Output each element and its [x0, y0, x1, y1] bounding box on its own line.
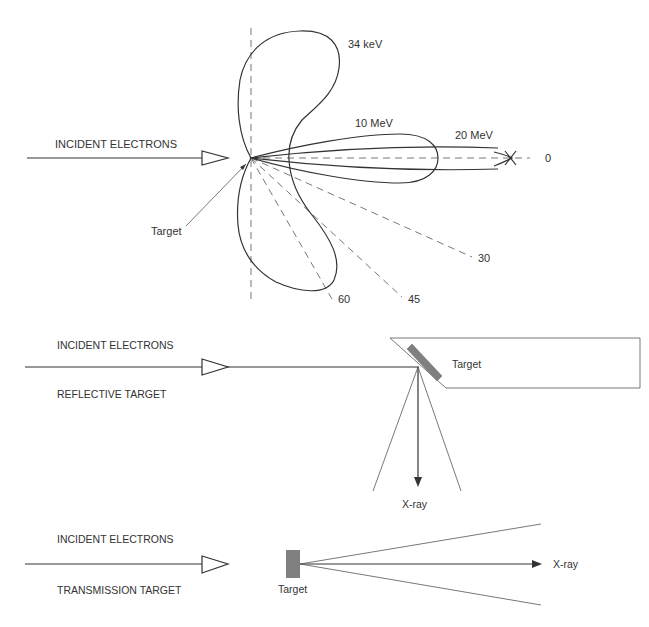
- incident-arrow-icon-bottom: [202, 556, 228, 573]
- target-label-top: Target: [151, 225, 182, 237]
- angle-line-30: [251, 158, 472, 257]
- reflective-target-label: REFLECTIVE TARGET: [57, 388, 167, 400]
- xray-fan-upper: [300, 524, 541, 564]
- xray-label-bottom: X-ray: [553, 558, 579, 570]
- angular-distribution-panel: INCIDENT ELECTRONS 0 30 45 60 34 keV 10 …: [27, 28, 551, 305]
- target-label-bottom: Target: [278, 583, 307, 595]
- xray-fan-left: [373, 367, 418, 491]
- target-label-middle: Target: [452, 358, 481, 370]
- angle-label-30: 30: [478, 252, 490, 264]
- xray-fan-lower: [300, 564, 541, 605]
- reflective-target-block: [407, 344, 442, 381]
- transmission-target-label: TRANSMISSION TARGET: [57, 584, 182, 596]
- lobe-label-20mev: 20 MeV: [455, 129, 494, 141]
- lobe-label-10mev: 10 MeV: [355, 117, 394, 129]
- angle-line-45: [251, 158, 402, 297]
- bremsstrahlung-diagram: INCIDENT ELECTRONS 0 30 45 60 34 keV 10 …: [0, 0, 649, 627]
- lobe-label-34kev: 34 keV: [348, 38, 383, 50]
- transmission-target-block: [286, 550, 300, 578]
- xray-arrow-icon-bottom: [532, 560, 542, 568]
- incident-arrow-icon-middle: [202, 359, 228, 375]
- transmission-target-panel: INCIDENT ELECTRONS TRANSMISSION TARGET T…: [25, 524, 579, 605]
- incident-electrons-label-bottom: INCIDENT ELECTRONS: [57, 533, 174, 545]
- angle-label-45: 45: [408, 293, 420, 305]
- incident-arrow-icon-top: [202, 151, 228, 165]
- angle-label-60: 60: [338, 293, 350, 305]
- xray-label-middle: X-ray: [402, 498, 428, 510]
- angle-label-0: 0: [545, 152, 551, 164]
- xray-fan-right: [418, 367, 461, 491]
- xray-arrow-icon-middle: [414, 477, 422, 487]
- reflective-target-panel: INCIDENT ELECTRONS REFLECTIVE TARGET Tar…: [25, 338, 640, 510]
- angle-line-60: [251, 158, 332, 299]
- incident-electrons-label-middle: INCIDENT ELECTRONS: [57, 339, 174, 351]
- incident-electrons-label-top: INCIDENT ELECTRONS: [55, 138, 177, 150]
